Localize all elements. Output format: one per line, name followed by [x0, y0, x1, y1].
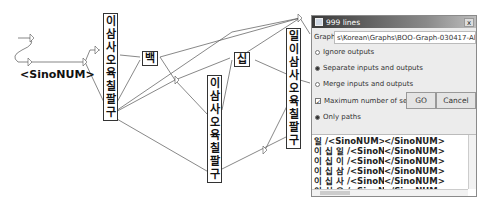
- close-icon[interactable]: x: [464, 18, 474, 27]
- list-item[interactable]: 이 십 사 /<SinoNUM></SinoNUM>: [314, 176, 464, 186]
- horizontal-scrollbar[interactable]: [312, 189, 468, 196]
- graph-box-baek: 백: [142, 51, 158, 66]
- graph-box-digits-2: 이삼사오 육칠팔구: [207, 75, 222, 183]
- graph-box-sip: 십: [234, 52, 250, 67]
- list-item[interactable]: 이 십 삼 /<SinoNUM></SinoNUM>: [314, 166, 464, 176]
- vertical-scrollbar[interactable]: [468, 135, 476, 189]
- radio-selected-icon[interactable]: [315, 115, 320, 120]
- radio-selected-icon[interactable]: [315, 66, 320, 71]
- results-list[interactable]: 일 /<SinoNUM></SinoNUM> 이 십 일 /<SinoNUM><…: [312, 134, 476, 196]
- option-ignore-outputs[interactable]: Ignore outputs: [312, 44, 476, 60]
- list-item[interactable]: 이 십 이 /<SinoNUM></SinoNUM>: [314, 156, 464, 166]
- graph-label: Graph:: [314, 33, 334, 41]
- cancel-button[interactable]: Cancel: [436, 92, 476, 109]
- list-item[interactable]: 일 /<SinoNUM></SinoNUM>: [314, 136, 464, 146]
- graph-box-digits-1: 이삼사오 육칠팔구: [103, 13, 118, 121]
- go-button[interactable]: GO: [406, 92, 436, 109]
- list-item[interactable]: 이 십 일 /<SinoNUM></SinoNUM>: [314, 146, 464, 156]
- max-sequences-label: Maximum number of sequen: [324, 97, 406, 105]
- explore-paths-dialog: 999 lines x Graph: s\Korean\Graphs\BOO-G…: [311, 15, 477, 197]
- sinonum-start-label: <SinoNUM>: [20, 68, 95, 81]
- option-separate-inputs-outputs[interactable]: Separate inputs and outputs: [312, 60, 476, 76]
- option-merge-inputs-outputs[interactable]: Merge inputs and outputs: [312, 76, 476, 92]
- max-sequences-row: ✓Maximum number of sequen GO Cancel: [312, 92, 476, 109]
- scroll-thumb[interactable]: [320, 191, 350, 195]
- dialog-titlebar[interactable]: 999 lines x: [312, 16, 476, 28]
- dialog-title: 999 lines: [326, 18, 360, 27]
- radio-icon[interactable]: [315, 50, 320, 55]
- graph-path-input[interactable]: s\Korean\Graphs\BOO-Graph-030417-All-Sam: [334, 31, 476, 44]
- option-only-paths[interactable]: Only paths: [312, 109, 476, 125]
- graph-path-row: Graph: s\Korean\Graphs\BOO-Graph-030417-…: [312, 30, 476, 44]
- graph-box-digits-3: 일이삼사 오육칠팔구: [286, 28, 301, 149]
- checkbox-checked-icon[interactable]: ✓: [315, 98, 321, 104]
- radio-icon[interactable]: [315, 82, 320, 87]
- window-icon: [315, 18, 323, 26]
